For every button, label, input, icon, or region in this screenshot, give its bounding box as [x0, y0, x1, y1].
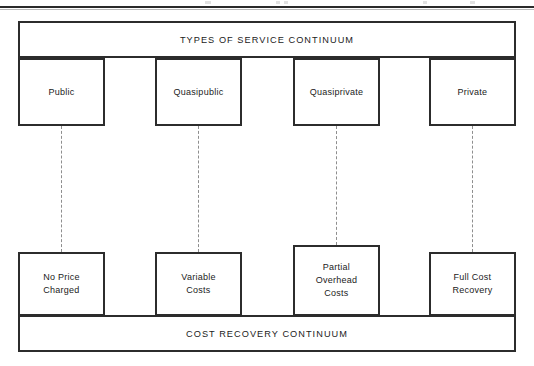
connector-public-to-no-price-charged	[61, 126, 62, 252]
label-line-1: No Price	[43, 271, 80, 284]
connector-quasiprivate-to-partial-overhead-costs	[336, 126, 337, 245]
connector-private-to-full-cost-recovery	[472, 126, 473, 252]
page-top-rule	[0, 6, 534, 8]
cost-recovery-box-no-price-charged: No Price Charged	[18, 252, 105, 316]
label-line-2: Charged	[43, 284, 80, 297]
cost-recovery-label-variable-costs: Variable Costs	[181, 271, 215, 297]
scan-artifact	[470, 1, 475, 4]
page-top-rule-shadow	[0, 9, 534, 10]
scan-artifact	[423, 1, 427, 4]
scan-artifact	[205, 1, 211, 4]
scan-artifact	[276, 1, 280, 4]
service-type-label-quasiprivate: Quasiprivate	[310, 86, 364, 99]
cost-recovery-label-partial-overhead-costs: Partial Overhead Costs	[316, 261, 358, 300]
cost-recovery-continuum-banner: COST RECOVERY CONTINUUM	[18, 315, 516, 352]
label-line-2: Costs	[181, 284, 215, 297]
cost-recovery-box-partial-overhead-costs: Partial Overhead Costs	[293, 245, 380, 316]
scan-artifact	[284, 1, 288, 4]
cost-recovery-box-full-cost-recovery: Full Cost Recovery	[429, 252, 516, 316]
connector-quasipublic-to-variable-costs	[198, 126, 199, 252]
service-type-label-public: Public	[48, 86, 74, 99]
service-type-box-private: Private	[429, 58, 516, 126]
label-line-1: Full Cost	[452, 271, 492, 284]
label-line-1: Variable	[181, 271, 215, 284]
cost-recovery-box-variable-costs: Variable Costs	[155, 252, 242, 316]
service-type-box-quasiprivate: Quasiprivate	[293, 58, 380, 126]
service-type-box-quasipublic: Quasipublic	[155, 58, 242, 126]
service-type-label-private: Private	[458, 86, 488, 99]
cost-recovery-label-full-cost-recovery: Full Cost Recovery	[452, 271, 492, 297]
label-line-3: Costs	[316, 287, 358, 300]
service-type-label-quasipublic: Quasipublic	[174, 86, 224, 99]
service-type-box-public: Public	[18, 58, 105, 126]
cost-recovery-continuum-label: COST RECOVERY CONTINUUM	[186, 329, 348, 339]
label-line-1: Partial	[316, 261, 358, 274]
types-of-service-continuum-banner: TYPES OF SERVICE CONTINUUM	[18, 21, 516, 58]
types-of-service-continuum-label: TYPES OF SERVICE CONTINUUM	[180, 35, 354, 45]
label-line-2: Recovery	[452, 284, 492, 297]
service-cost-continuum-diagram: TYPES OF SERVICE CONTINUUM Public Quasip…	[0, 0, 534, 366]
cost-recovery-label-no-price-charged: No Price Charged	[43, 271, 80, 297]
label-line-2: Overhead	[316, 274, 358, 287]
